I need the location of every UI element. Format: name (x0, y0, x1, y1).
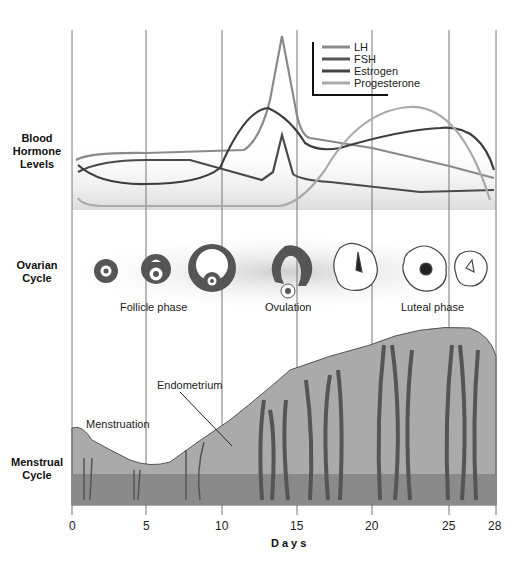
legend-fsh: FSH (354, 53, 376, 65)
svg-text:0: 0 (69, 519, 76, 533)
svg-text:10: 10 (215, 519, 229, 533)
svg-text:5: 5 (143, 519, 150, 533)
endometrium-label: Endometrium (157, 379, 222, 391)
menstruation-label: Menstruation (86, 418, 150, 430)
svg-text:28: 28 (488, 519, 502, 533)
legend-progesterone: Progesterone (354, 77, 420, 89)
x-axis-label: Days (271, 537, 309, 549)
legend-estrogen: Estrogen (354, 65, 398, 77)
hormone-band (72, 140, 496, 210)
legend-lh: LH (354, 41, 368, 53)
follicle-phase-label: Follicle phase (120, 301, 187, 313)
svg-text:25: 25 (442, 519, 456, 533)
svg-text:15: 15 (290, 519, 304, 533)
svg-text:20: 20 (365, 519, 379, 533)
legend: LH FSH Estrogen Progesterone (313, 41, 420, 95)
ovulation-label: Ovulation (265, 301, 311, 313)
x-axis: 0 5 10 15 20 25 28 Days (69, 519, 502, 549)
menstrual-cycle-diagram: LH FSH Estrogen Progesterone Follicle ph… (0, 0, 520, 571)
luteal-phase-label: Luteal phase (401, 301, 464, 313)
